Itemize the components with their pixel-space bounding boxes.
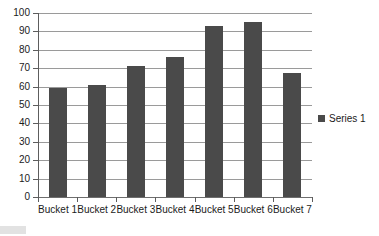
- y-axis-tick-label-0: 0: [0, 192, 30, 202]
- gridline-90: [38, 31, 312, 32]
- y-axis-tick-label-60: 60: [0, 82, 30, 92]
- x-axis-tick-label: Bucket 5: [195, 204, 234, 215]
- y-axis-tick-label-90: 90: [0, 26, 30, 36]
- scan-artifact: [0, 226, 26, 234]
- x-axis-tick-label: Bucket 4: [155, 204, 194, 215]
- y-axis-tick-label-70: 70: [0, 63, 30, 73]
- bar-chart: 0102030405060708090100 Bucket 1Bucket 2B…: [0, 0, 379, 236]
- x-axis-tick: [273, 197, 274, 202]
- y-axis-line: [38, 13, 39, 198]
- x-axis-tick: [234, 197, 235, 202]
- y-axis-tick-label-50: 50: [0, 100, 30, 110]
- bar: [127, 66, 145, 197]
- x-axis-tick-label: Bucket 1: [38, 204, 77, 215]
- gridline-0: [38, 197, 312, 198]
- x-axis-tick-label: Bucket 2: [77, 204, 116, 215]
- y-axis-tick-label-20: 20: [0, 155, 30, 165]
- plot-area: [38, 13, 312, 197]
- chart-legend: Series 1: [318, 113, 366, 124]
- y-axis-tick-label-100: 100: [0, 8, 30, 18]
- bar: [283, 73, 301, 197]
- x-axis-tick: [195, 197, 196, 202]
- legend-color-swatch: [318, 115, 325, 122]
- gridline-100: [38, 13, 312, 14]
- bar: [166, 57, 184, 197]
- x-axis-tick: [312, 197, 313, 202]
- bar: [244, 22, 262, 197]
- x-axis-tick-origin: [38, 197, 39, 202]
- y-axis-tick-label-40: 40: [0, 118, 30, 128]
- x-axis-tick-label: Bucket 3: [116, 204, 155, 215]
- gridline-80: [38, 50, 312, 51]
- x-axis-tick-label: Bucket 7: [273, 204, 312, 215]
- bar: [205, 26, 223, 197]
- x-axis-tick: [77, 197, 78, 202]
- x-axis-tick: [155, 197, 156, 202]
- bar: [49, 88, 67, 197]
- y-axis-tick-label-80: 80: [0, 45, 30, 55]
- y-axis-tick-label-30: 30: [0, 137, 30, 147]
- bar: [88, 85, 106, 197]
- x-axis-tick: [116, 197, 117, 202]
- x-axis-tick-label: Bucket 6: [234, 204, 273, 215]
- y-axis-tick-label-10: 10: [0, 174, 30, 184]
- legend-series-label: Series 1: [329, 113, 366, 124]
